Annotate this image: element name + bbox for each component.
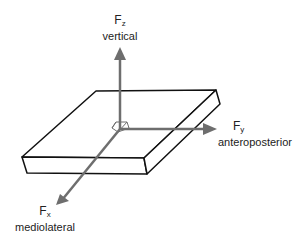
y-axis-name: anteroposterior bbox=[205, 136, 305, 148]
force-plate-drawing bbox=[0, 0, 306, 237]
y-axis-symbol: Fy bbox=[205, 120, 305, 136]
z-axis-symbol: Fz bbox=[100, 14, 140, 30]
y-axis-label: Fy anteroposterior bbox=[205, 120, 305, 148]
z-axis-arrowhead-icon bbox=[114, 47, 126, 60]
x-symbol-letter: F bbox=[39, 204, 46, 218]
x-symbol-subscript: x bbox=[47, 210, 51, 219]
z-symbol-subscript: z bbox=[122, 19, 126, 28]
y-symbol-subscript: y bbox=[240, 125, 244, 134]
z-axis-label: Fz vertical bbox=[100, 14, 140, 42]
x-axis-symbol: Fx bbox=[10, 205, 80, 221]
force-plate-diagram: Fz vertical Fy anteroposterior Fx mediol… bbox=[0, 0, 306, 237]
x-axis-label: Fx mediolateral bbox=[10, 205, 80, 233]
z-symbol-letter: F bbox=[114, 13, 121, 27]
z-axis-name: vertical bbox=[100, 30, 140, 42]
x-axis-name: mediolateral bbox=[10, 221, 80, 233]
